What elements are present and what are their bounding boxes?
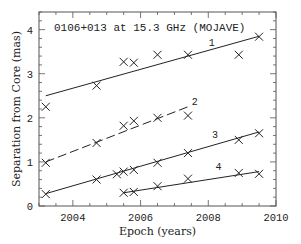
series-label: 1 bbox=[209, 38, 215, 49]
x-marker-icon bbox=[184, 112, 192, 120]
x-marker-icon bbox=[130, 59, 138, 67]
x-marker-icon bbox=[42, 103, 50, 111]
x-axis-label: Epoch (years) bbox=[119, 225, 196, 238]
x-marker-icon bbox=[154, 182, 162, 190]
x-marker-icon bbox=[255, 170, 263, 178]
series-label: 2 bbox=[192, 97, 198, 108]
y-tick-label: 4 bbox=[27, 25, 33, 37]
x-marker-icon bbox=[93, 82, 101, 90]
series-1: 1 bbox=[42, 33, 263, 111]
x-marker-icon bbox=[42, 159, 50, 167]
x-marker-icon bbox=[235, 169, 243, 177]
y-tick-label: 0 bbox=[27, 201, 33, 213]
x-marker-icon bbox=[93, 139, 101, 147]
x-tick-label: 2008 bbox=[196, 212, 221, 224]
series-label: 3 bbox=[212, 130, 218, 141]
x-marker-icon bbox=[184, 51, 192, 59]
y-tick-label: 2 bbox=[27, 113, 33, 125]
x-marker-icon bbox=[154, 51, 162, 59]
series-4: 4 bbox=[120, 162, 263, 197]
fit-line bbox=[46, 107, 188, 162]
x-marker-icon bbox=[235, 136, 243, 144]
series-label: 4 bbox=[215, 162, 221, 173]
y-axis-label: Separation from Core (mas) bbox=[10, 31, 23, 187]
x-tick-label: 2010 bbox=[263, 212, 288, 224]
y-tick-label: 1 bbox=[27, 157, 33, 169]
y-tick-label: 3 bbox=[27, 69, 33, 81]
x-marker-icon bbox=[120, 58, 128, 66]
x-tick-label: 2004 bbox=[60, 212, 85, 224]
x-marker-icon bbox=[235, 51, 243, 59]
x-marker-icon bbox=[130, 166, 138, 174]
x-marker-icon bbox=[154, 159, 162, 167]
x-marker-icon bbox=[130, 117, 138, 125]
chart-title: 0106+013 at 15.3 GHz (MOJAVE) bbox=[54, 22, 245, 34]
x-marker-icon bbox=[184, 175, 192, 183]
fit-line bbox=[46, 132, 259, 194]
plot-area: 1234 bbox=[42, 33, 263, 198]
series-3: 3 bbox=[42, 129, 263, 198]
x-marker-icon bbox=[120, 122, 128, 130]
fit-line bbox=[46, 36, 259, 96]
x-tick-label: 2006 bbox=[128, 212, 153, 224]
chart-figure: 1234 200420062008201001234 0106+013 at 1… bbox=[0, 0, 301, 244]
x-marker-icon bbox=[42, 190, 50, 198]
